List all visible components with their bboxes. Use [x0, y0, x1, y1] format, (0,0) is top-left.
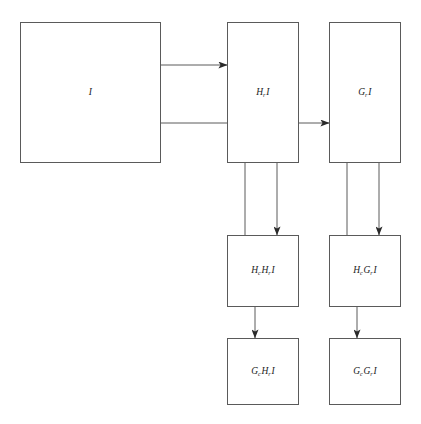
node-label-gchri: GcHrI: [251, 367, 275, 377]
block-diagram: I HrI GrI HcHrI HcGrI GcHrI GcGrI: [0, 0, 421, 424]
node-i: I: [20, 22, 161, 163]
node-label-hchri: HcHrI: [251, 266, 275, 276]
node-label-i: I: [89, 88, 92, 98]
node-hchri: HcHrI: [227, 235, 299, 307]
node-label-hcgri: HcGrI: [353, 266, 377, 276]
node-gri: GrI: [329, 22, 401, 163]
node-gcgri: GcGrI: [329, 338, 401, 405]
node-hcgri: HcGrI: [329, 235, 401, 307]
node-label-gcgri: GcGrI: [353, 367, 377, 377]
node-gchri: GcHrI: [227, 338, 299, 405]
node-label-gri: GrI: [358, 88, 371, 98]
node-label-hri: HrI: [256, 88, 269, 98]
node-hri: HrI: [227, 22, 299, 163]
